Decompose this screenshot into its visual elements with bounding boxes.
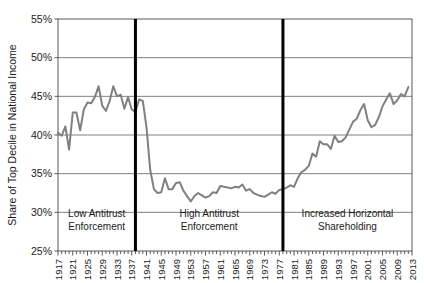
- x-tick-label: 1937: [126, 259, 137, 280]
- era-label-line2: Enforcement: [68, 221, 125, 232]
- x-tick-label: 1961: [215, 259, 226, 280]
- x-tick-label: 1921: [67, 259, 78, 280]
- x-tick-label: 2013: [407, 259, 418, 280]
- x-tick-label: 1949: [171, 259, 182, 280]
- y-tick-label: 55%: [31, 13, 52, 25]
- x-tick-label: 1929: [97, 259, 108, 280]
- x-tick-label: 2001: [362, 259, 373, 280]
- y-tick-label: 50%: [31, 51, 52, 63]
- income-share-line-chart: 55%50%45%40%35%30%25% 191719211925192919…: [0, 0, 424, 283]
- y-tick-label: 25%: [31, 245, 52, 257]
- x-tick-label: 1977: [274, 259, 285, 280]
- x-tick-label: 1981: [289, 259, 300, 280]
- x-tick-label: 1973: [259, 259, 270, 280]
- x-tick-label: 1957: [200, 259, 211, 280]
- x-tick-label: 1985: [303, 259, 314, 280]
- y-axis-title: Share of Top Decile in National Income: [6, 44, 18, 225]
- era-label-line2: Shareholding: [318, 221, 377, 232]
- y-tick-label: 45%: [31, 90, 52, 102]
- x-tick-label: 1997: [348, 259, 359, 280]
- era-label-line1: Low Antitrust: [68, 208, 125, 219]
- x-tick-label: 1945: [156, 259, 167, 280]
- x-tick-label: 1917: [53, 259, 64, 280]
- x-tick-label: 1965: [230, 259, 241, 280]
- x-tick-label: 1933: [112, 259, 123, 280]
- chart-background: [0, 0, 424, 283]
- x-axis-tick-labels: 1917192119251929193319371941194519491953…: [53, 259, 418, 280]
- y-tick-label: 30%: [31, 206, 52, 218]
- y-tick-label: 35%: [31, 167, 52, 179]
- era-label-line2: Enforcement: [181, 221, 238, 232]
- x-tick-label: 1993: [333, 259, 344, 280]
- x-tick-label: 1941: [141, 259, 152, 280]
- era-label-line1: High Antitrust: [179, 208, 239, 219]
- x-tick-label: 1953: [185, 259, 196, 280]
- x-tick-label: 2005: [377, 259, 388, 280]
- chart-container: 55%50%45%40%35%30%25% 191719211925192919…: [0, 0, 424, 283]
- x-tick-label: 2009: [392, 259, 403, 280]
- y-axis-title-text: Share of Top Decile in National Income: [6, 44, 18, 225]
- y-tick-label: 40%: [31, 129, 52, 141]
- x-tick-label: 1925: [82, 259, 93, 280]
- x-tick-label: 1969: [244, 259, 255, 280]
- era-label-line1: Increased Horizontal: [302, 208, 394, 219]
- x-tick-label: 1989: [318, 259, 329, 280]
